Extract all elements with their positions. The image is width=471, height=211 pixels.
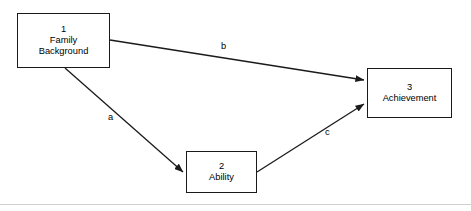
node-family-background-label: Family Background (39, 35, 89, 58)
edge-label-b: b (221, 42, 226, 51)
edge-label-c: c (325, 128, 330, 137)
diagram-canvas: 1 Family Background 2 Ability 3 Achievem… (0, 0, 471, 211)
node-ability-label: Ability (209, 172, 234, 183)
edge-label-a: a (108, 113, 113, 122)
node-ability: 2 Ability (186, 151, 257, 193)
edge-b-line (110, 40, 364, 80)
node-achievement-number: 3 (407, 82, 412, 93)
edge-a-line (65, 68, 183, 172)
node-achievement-label: Achievement (383, 93, 437, 104)
footer-divider (0, 204, 471, 205)
node-family-background: 1 Family Background (17, 13, 110, 68)
node-ability-number: 2 (219, 161, 224, 172)
node-achievement: 3 Achievement (367, 68, 452, 118)
edge-c-line (257, 104, 364, 172)
node-family-background-number: 1 (61, 24, 66, 35)
